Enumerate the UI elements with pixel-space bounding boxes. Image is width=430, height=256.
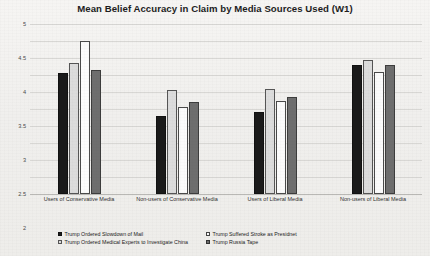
x-axis-category-label: Users of Conservative Media <box>30 196 128 204</box>
bar-group <box>30 24 128 194</box>
legend-item[interactable]: Trump Ordered Slowdown of Mail <box>58 231 206 237</box>
legend-label: Trump Ordered Slowdown of Mail <box>65 231 144 237</box>
legend-swatch-icon <box>206 232 210 236</box>
bar <box>167 90 177 194</box>
bar <box>352 65 362 194</box>
legend-label: Trump Suffered Stroke as Presidnet <box>213 231 297 237</box>
y-axis-tick-label: 4 <box>23 89 26 95</box>
y-axis-tick-label: 4.5 <box>18 55 26 61</box>
bar <box>265 89 275 194</box>
y-axis-tick-label: 3 <box>23 157 26 163</box>
bar-group <box>128 24 226 194</box>
y-axis-tick-label: 3.5 <box>18 123 26 129</box>
bar <box>156 116 166 194</box>
legend-label: Trump Russia Tape <box>213 239 259 245</box>
bar <box>287 97 297 194</box>
legend-swatch-icon <box>58 232 62 236</box>
bar-groups <box>30 24 422 194</box>
bar <box>91 70 101 194</box>
legend-item[interactable]: Trump Russia Tape <box>206 239 358 245</box>
chart-legend: Trump Ordered Slowdown of MailTrump Suff… <box>58 231 358 245</box>
x-axis-category-label: Non-users of Conservative Media <box>128 196 226 204</box>
legend-item[interactable]: Trump Ordered Medical Experts to Investi… <box>58 239 206 245</box>
bar <box>58 73 68 194</box>
bar <box>178 107 188 194</box>
chart-page: Mean Belief Accuracy in Claim by Media S… <box>0 0 430 256</box>
y-axis-tick-label: 2 <box>23 225 26 231</box>
x-axis-line: 0 <box>30 194 422 195</box>
bar-group <box>226 24 324 194</box>
x-axis-category-label: Non-users of Liberal Media <box>324 196 422 204</box>
bar <box>276 101 286 195</box>
bar <box>69 63 79 194</box>
bar <box>374 72 384 194</box>
legend-item[interactable]: Trump Suffered Stroke as Presidnet <box>206 231 358 237</box>
bar <box>385 65 395 194</box>
legend-swatch-icon <box>58 240 62 244</box>
bar <box>189 102 199 194</box>
x-axis-category-label: Users of Liberal Media <box>226 196 324 204</box>
y-axis-tick-label: 5 <box>23 21 26 27</box>
bar <box>363 60 373 194</box>
legend-swatch-icon <box>206 240 210 244</box>
y-axis-tick-label: 2.5 <box>18 191 26 197</box>
chart-title: Mean Belief Accuracy in Claim by Media S… <box>0 3 430 14</box>
x-axis-labels: Users of Conservative MediaNon-users of … <box>30 196 422 204</box>
bar <box>254 112 264 194</box>
bar-group <box>324 24 422 194</box>
bar <box>80 41 90 194</box>
legend-label: Trump Ordered Medical Experts to Investi… <box>65 239 188 245</box>
plot-area: 00.511.522.533.544.55 <box>30 24 422 194</box>
